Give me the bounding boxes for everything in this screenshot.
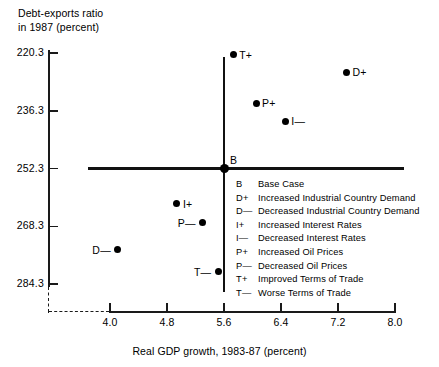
legend-item-description: Increased Oil Prices xyxy=(258,246,343,260)
data-point-label: P— xyxy=(178,217,196,229)
x-tick-label: 4.0 xyxy=(90,316,130,328)
legend-item: T+Improved Terms of Trade xyxy=(236,273,420,287)
data-point-label: D+ xyxy=(353,66,367,78)
legend-item: T—Worse Terms of Trade xyxy=(236,287,420,301)
legend-item: P—Decreased Oil Prices xyxy=(236,260,420,274)
x-tick-mark xyxy=(223,303,225,312)
x-tick-label: 6.4 xyxy=(261,316,301,328)
legend-item-key: I— xyxy=(236,232,258,246)
x-axis-title: Real GDP growth, 1983-87 (percent) xyxy=(0,345,439,357)
legend-item-description: Decreased Industrial Country Demand xyxy=(258,205,420,219)
data-point-label: B xyxy=(230,154,237,166)
y-tick-label: 236.3 xyxy=(0,104,44,116)
legend-item-key: P— xyxy=(236,260,258,274)
legend-item-key: D+ xyxy=(236,192,258,206)
data-point-marker xyxy=(199,219,206,226)
data-point-marker xyxy=(282,118,289,125)
legend-item-description: Increased Interest Rates xyxy=(258,219,362,233)
legend-item: I—Decreased Interest Rates xyxy=(236,232,420,246)
y-tick-label: 268.3 xyxy=(0,219,44,231)
x-tick-mark xyxy=(109,303,111,312)
data-point-marker xyxy=(343,69,350,76)
x-tick-mark xyxy=(337,303,339,312)
y-axis-break-dashes xyxy=(48,287,49,312)
legend-item: I+Increased Interest Rates xyxy=(236,219,420,233)
x-tick-mark xyxy=(166,303,168,312)
legend-item-key: B xyxy=(236,178,258,192)
y-tick-mark xyxy=(49,226,58,228)
legend-item-key: P+ xyxy=(236,246,258,260)
legend-item: BBase Case xyxy=(236,178,420,192)
data-point-label: T— xyxy=(194,266,211,278)
y-axis-title-line1: Debt-exports ratio xyxy=(18,6,103,20)
legend-item-key: I+ xyxy=(236,219,258,233)
y-tick-label: 252.3 xyxy=(0,162,44,174)
y-tick-label: 220.3 xyxy=(0,46,44,58)
scatter-chart: Debt-exports ratio in 1987 (percent) 220… xyxy=(0,0,439,367)
data-point-marker xyxy=(215,268,222,275)
data-point-label: D— xyxy=(92,244,110,256)
legend-item-description: Decreased Interest Rates xyxy=(258,232,366,246)
x-tick-label: 4.8 xyxy=(147,316,187,328)
y-axis-title-line2: in 1987 (percent) xyxy=(18,20,99,34)
data-point-label: P+ xyxy=(262,97,276,109)
x-tick-label: 7.2 xyxy=(318,316,358,328)
data-point-marker xyxy=(114,246,121,253)
y-tick-mark xyxy=(49,52,58,54)
legend-item-description: Increased Industrial Country Demand xyxy=(258,192,416,206)
vertical-reference-line xyxy=(223,57,225,292)
legend-item-description: Improved Terms of Trade xyxy=(258,273,363,287)
y-tick-mark xyxy=(49,283,58,285)
legend-item-key: T— xyxy=(236,287,258,301)
legend-item: D+Increased Industrial Country Demand xyxy=(236,192,420,206)
y-tick-mark xyxy=(49,168,58,170)
x-tick-label: 8.0 xyxy=(375,316,415,328)
x-tick-label: 5.6 xyxy=(204,316,244,328)
data-point-marker xyxy=(253,100,260,107)
legend-item: P+Increased Oil Prices xyxy=(236,246,420,260)
data-point-label: I+ xyxy=(183,198,192,210)
legend: BBase CaseD+Increased Industrial Country… xyxy=(236,178,420,300)
x-tick-mark xyxy=(394,303,396,312)
data-point-label: I— xyxy=(291,115,305,127)
data-point-marker xyxy=(230,51,237,58)
y-tick-label: 284.3 xyxy=(0,277,44,289)
legend-item-description: Base Case xyxy=(258,178,304,192)
legend-item-key: D— xyxy=(236,205,258,219)
data-point-marker xyxy=(173,200,180,207)
legend-item-key: T+ xyxy=(236,273,258,287)
data-point-label: T+ xyxy=(239,49,252,61)
data-point-marker xyxy=(220,164,229,173)
x-tick-mark xyxy=(280,303,282,312)
x-axis-break-dashes xyxy=(49,311,109,312)
legend-item-description: Worse Terms of Trade xyxy=(258,287,351,301)
y-tick-mark xyxy=(49,110,58,112)
legend-item-description: Decreased Oil Prices xyxy=(258,260,347,274)
horizontal-reference-line xyxy=(88,167,404,169)
legend-item: D—Decreased Industrial Country Demand xyxy=(236,205,420,219)
